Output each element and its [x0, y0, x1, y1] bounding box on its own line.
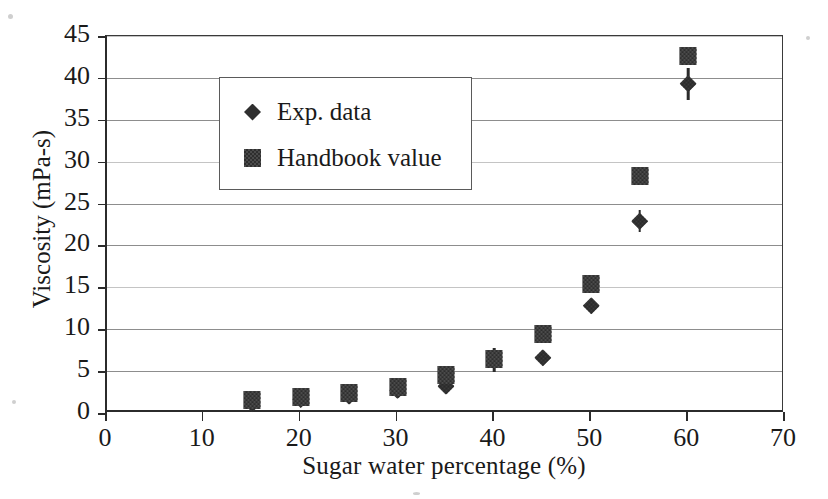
- x-tick-mark: [396, 412, 398, 421]
- square-icon: [244, 149, 261, 167]
- data-point-handbook-value: [583, 275, 600, 293]
- x-tick-label: 60: [651, 424, 721, 452]
- x-tick-label: 40: [457, 424, 527, 452]
- legend-label-handbook-value: Handbook value: [277, 145, 442, 171]
- y-tick-label: 25: [30, 189, 90, 215]
- data-point-handbook-value: [292, 388, 309, 406]
- data-point-handbook-value: [244, 391, 261, 409]
- y-tick-mark: [98, 204, 107, 206]
- gridline: [107, 329, 782, 330]
- x-tick-label: 10: [167, 424, 237, 452]
- data-point-handbook-value: [486, 350, 503, 368]
- x-tick-label: 30: [361, 424, 431, 452]
- data-point-handbook-value: [680, 47, 697, 65]
- y-tick-label: 20: [30, 230, 90, 256]
- plot-area: Exp. data Handbook value: [105, 35, 783, 412]
- y-tick-mark: [98, 329, 107, 331]
- x-tick-mark: [202, 412, 204, 421]
- x-tick-label: 70: [748, 424, 818, 452]
- y-tick-mark: [98, 162, 107, 164]
- scan-speckle: [12, 400, 16, 404]
- viscosity-scatter-chart: Viscosity (mPa-s) Exp. data Handbook val…: [0, 0, 828, 499]
- y-tick-label: 30: [30, 147, 90, 173]
- y-tick-label: 10: [30, 314, 90, 340]
- y-tick-mark: [98, 36, 107, 38]
- legend-label-exp-data: Exp. data: [277, 99, 371, 125]
- diamond-icon: [244, 104, 261, 121]
- legend-item-handbook-value: Handbook value: [244, 145, 442, 171]
- gridline: [107, 36, 782, 37]
- scan-speckle: [8, 14, 13, 19]
- y-tick-label: 40: [30, 63, 90, 89]
- x-tick-mark: [783, 412, 785, 421]
- legend-item-exp-data: Exp. data: [244, 99, 371, 125]
- y-tick-mark: [98, 371, 107, 373]
- y-tick-mark: [98, 245, 107, 247]
- data-point-handbook-value: [389, 378, 406, 396]
- x-tick-mark: [589, 412, 591, 421]
- x-tick-mark: [105, 412, 107, 421]
- y-tick-mark: [98, 120, 107, 122]
- x-tick-label: 20: [264, 424, 334, 452]
- y-tick-label: 5: [30, 356, 90, 382]
- data-point-handbook-value: [534, 325, 551, 343]
- gridline: [107, 245, 782, 246]
- y-tick-label: 0: [30, 398, 90, 424]
- x-axis-title: Sugar water percentage (%): [105, 452, 783, 480]
- x-tick-mark: [686, 412, 688, 421]
- x-tick-mark: [299, 412, 301, 421]
- data-point-handbook-value: [438, 366, 455, 384]
- y-tick-label: 35: [30, 105, 90, 131]
- x-tick-mark: [492, 412, 494, 421]
- scan-speckle: [413, 492, 420, 495]
- x-tick-label: 0: [70, 424, 140, 452]
- data-point-exp-data: [583, 297, 600, 314]
- y-tick-mark: [98, 287, 107, 289]
- y-tick-label: 15: [30, 272, 90, 298]
- gridline: [107, 287, 782, 288]
- data-point-handbook-value: [341, 384, 358, 402]
- chart-legend: Exp. data Handbook value: [219, 77, 472, 190]
- data-point-exp-data: [534, 349, 551, 366]
- y-tick-mark: [98, 78, 107, 80]
- data-point-exp-data: [631, 213, 648, 230]
- y-tick-label: 45: [30, 21, 90, 47]
- scan-speckle: [806, 36, 810, 40]
- x-tick-label: 50: [554, 424, 624, 452]
- data-point-handbook-value: [631, 167, 648, 185]
- gridline: [107, 204, 782, 205]
